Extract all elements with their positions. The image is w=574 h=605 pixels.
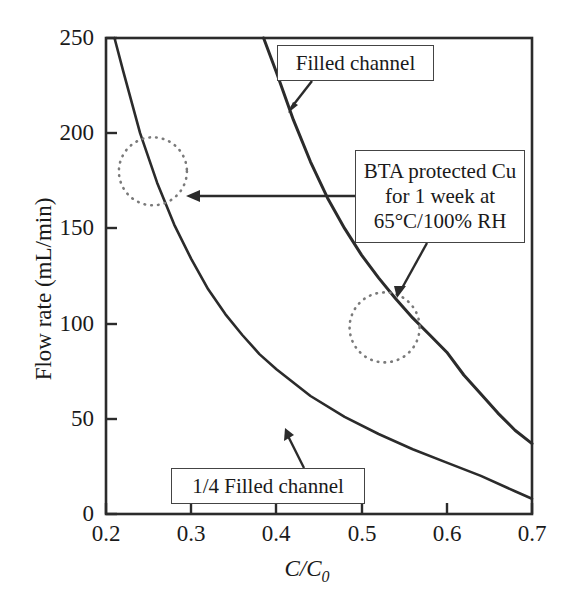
arrow-filled-channel (288, 81, 312, 113)
intersection-circle-2 (350, 292, 420, 362)
annotation-filled-channel-label: Filled channel (296, 51, 416, 76)
annotation-bta-line-1: BTA protected Cu (364, 159, 516, 184)
annotation-bta-protected-cu: BTA protected Cu for 1 week at 65°C/100%… (355, 150, 525, 243)
y-tick-marks (106, 38, 117, 514)
curve-quarter-filled-channel (115, 38, 533, 499)
x-tick-label-0.5: 0.5 (322, 521, 402, 547)
x-tick-label-0.7: 0.7 (492, 521, 572, 547)
annotation-bta-line-2: for 1 week at (364, 184, 516, 209)
y-tick-label-250: 250 (22, 25, 94, 51)
x-axis-title: C/C0 (247, 556, 367, 586)
figure-canvas: 250 200 150 100 50 0 0.2 0.3 0.4 0.5 0.6… (0, 0, 574, 605)
y-axis-title: Flow rate (mL/min) (31, 159, 57, 419)
plot-border (106, 38, 532, 514)
annotation-filled-channel: Filled channel (277, 45, 434, 81)
x-tick-label-0.2: 0.2 (66, 521, 146, 547)
x-tick-marks (106, 503, 532, 514)
x-axis-title-subscript: 0 (322, 568, 330, 585)
y-tick-label-200: 200 (22, 120, 94, 146)
arrow-bta-to-circle-2 (394, 243, 427, 298)
axes-frame (106, 38, 532, 514)
x-tick-label-0.6: 0.6 (407, 521, 487, 547)
x-tick-label-0.3: 0.3 (151, 521, 231, 547)
annotation-quarter-filled-channel: 1/4 Filled channel (171, 468, 365, 504)
x-axis-title-main: C/C (284, 556, 321, 581)
annotation-bta-line-3: 65°C/100% RH (364, 209, 516, 234)
annotation-quarter-filled-channel-label: 1/4 Filled channel (192, 474, 344, 499)
arrow-quarter-filled-channel (284, 428, 304, 468)
x-tick-label-0.4: 0.4 (236, 521, 316, 547)
